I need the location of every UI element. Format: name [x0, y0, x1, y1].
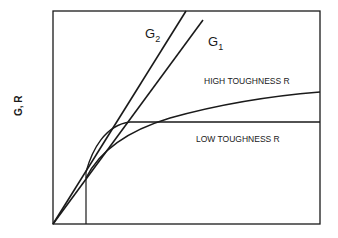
g2-line: [53, 11, 186, 224]
y-axis-label: G, R: [13, 95, 24, 116]
high-toughness-label: HIGH TOUGHNESS R: [204, 76, 290, 86]
g1-label: G1: [208, 34, 223, 52]
low-toughness-curve: [86, 122, 320, 172]
diagram-canvas: G2 G1 HIGH TOUGHNESS R LOW TOUGHNESS R G…: [0, 0, 338, 238]
low-toughness-label: LOW TOUGHNESS R: [196, 134, 280, 144]
g2-label: G2: [145, 26, 160, 44]
